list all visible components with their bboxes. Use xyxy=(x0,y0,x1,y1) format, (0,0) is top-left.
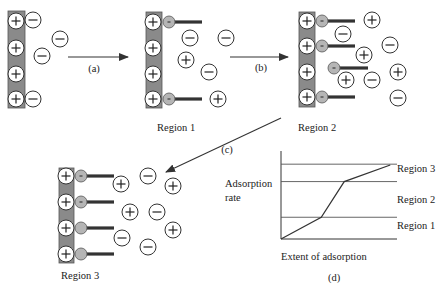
y-axis-label-line2: rate xyxy=(225,192,241,203)
arrow-step-b: (b) xyxy=(230,57,288,74)
adsorption-mechanism-diagram: Region 1Region 2Region 3 (a)(b)(c) Adsor… xyxy=(0,0,445,293)
region-3-label: Region 3 xyxy=(397,163,435,174)
cation-icon xyxy=(178,52,194,68)
surfactant-molecule-icon xyxy=(75,196,114,208)
cation-icon xyxy=(356,47,372,63)
anion-icon xyxy=(182,30,198,46)
cation-icon xyxy=(364,12,380,28)
surface-cation-icon xyxy=(58,220,74,236)
surface-cation-icon xyxy=(299,64,315,80)
panel-label-region1: Region 1 xyxy=(157,122,195,133)
adsorption-curve xyxy=(281,165,390,239)
surfactant-molecule-icon xyxy=(316,91,355,103)
y-axis-label-line1: Adsorption xyxy=(225,178,273,189)
surface-cation-icon xyxy=(145,91,161,107)
step-label: (c) xyxy=(221,144,233,156)
surface-cation-icon xyxy=(58,246,74,262)
anion-icon xyxy=(140,168,156,184)
process-arrows: (a)(b)(c) xyxy=(68,57,288,172)
arrow-step-a: (a) xyxy=(68,57,128,75)
diagram-canvas: Region 1Region 2Region 3 (a)(b)(c) Adsor… xyxy=(0,0,445,293)
x-axis-label: Extent of adsorption xyxy=(281,251,367,262)
surfactant-molecule-icon xyxy=(75,248,114,260)
cation-icon xyxy=(113,176,129,192)
cation-icon xyxy=(338,72,354,88)
surface-cation-icon xyxy=(145,40,161,56)
surface-cation-icon xyxy=(8,91,24,107)
surface-cation-icon xyxy=(299,38,315,54)
surfactant-molecule-icon xyxy=(163,93,202,105)
anion-icon xyxy=(140,239,156,255)
anion-icon xyxy=(52,31,68,47)
surface-cation-icon xyxy=(145,66,161,82)
surface-cation-icon xyxy=(299,13,315,29)
surfactant-molecule-icon xyxy=(163,16,202,28)
surfactant-molecule-icon xyxy=(316,15,355,27)
anion-icon xyxy=(201,64,217,80)
cation-icon xyxy=(165,178,181,194)
step-label: (a) xyxy=(88,63,100,75)
anion-icon xyxy=(218,30,234,46)
anion-icon xyxy=(364,72,380,88)
cation-icon xyxy=(210,91,226,107)
cation-icon xyxy=(390,64,406,80)
anion-icon xyxy=(335,26,351,42)
panel-label-region3: Region 3 xyxy=(61,270,99,281)
surface-cation-icon xyxy=(299,89,315,105)
panel-region3: Region 3 xyxy=(58,168,181,281)
panel-initial xyxy=(8,11,68,108)
anion-icon xyxy=(25,12,41,28)
anion-icon xyxy=(25,91,41,107)
cation-icon xyxy=(122,204,138,220)
surface-cation-icon xyxy=(58,194,74,210)
anion-icon xyxy=(382,37,398,53)
panel-label-region2: Region 2 xyxy=(298,122,336,133)
surface-cation-icon xyxy=(8,40,24,56)
cation-icon xyxy=(165,222,181,238)
region-2-label: Region 2 xyxy=(397,194,435,205)
anion-icon xyxy=(34,48,50,64)
surfactant-molecule-icon xyxy=(316,40,355,52)
panel-region2: Region 2 xyxy=(298,12,406,133)
anion-icon xyxy=(114,230,130,246)
anion-icon xyxy=(390,90,406,106)
surface-cation-icon xyxy=(145,14,161,30)
chart-panel-label: (d) xyxy=(328,272,341,284)
surfactant-molecule-icon xyxy=(75,222,114,234)
surface-cation-icon xyxy=(8,13,24,29)
adsorption-rate-chart: Adsorption rate Extent of adsorption (d)… xyxy=(225,151,435,284)
surfactant-molecule-icon xyxy=(75,170,114,182)
panels-layer: Region 1Region 2Region 3 xyxy=(8,11,406,281)
step-label: (b) xyxy=(255,62,268,74)
surface-cation-icon xyxy=(8,66,24,82)
panel-region1: Region 1 xyxy=(145,12,234,133)
surface-cation-icon xyxy=(58,168,74,184)
anion-icon xyxy=(149,204,165,220)
region-1-label: Region 1 xyxy=(397,220,435,231)
